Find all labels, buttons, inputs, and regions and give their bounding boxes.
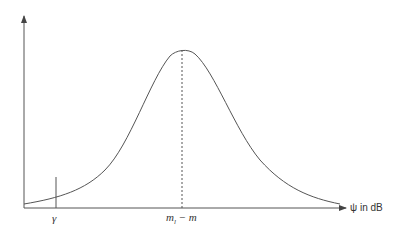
mean-label: ml − m	[166, 211, 197, 226]
x-axis-label: ψ in dB	[350, 202, 383, 213]
mean-label-m: m	[166, 211, 174, 223]
mean-label-rest: − m	[176, 211, 197, 223]
diagram-canvas	[0, 0, 400, 234]
gamma-label: γ	[52, 212, 56, 224]
